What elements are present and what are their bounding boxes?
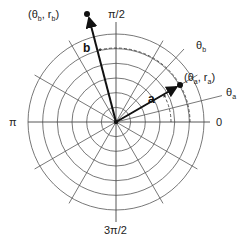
label-theta-b: θb [196,39,206,53]
label-three-half-pi: 3π/2 [104,224,127,236]
angle-b-arc [98,48,190,122]
label-point-b: (θb, rb) [28,8,59,22]
theta-a-line [116,96,222,122]
label-vector-b: b [83,41,90,55]
label-theta-a: θa [226,86,236,100]
origin-point [114,120,118,124]
label-half-pi: π/2 [108,8,125,20]
polar-diagram: 0 π π/2 3π/2 θb θa a b (θa, ra) (θb, rb) [0,0,243,245]
vector-a [116,87,177,122]
label-vector-a: a [148,92,155,106]
point-a [177,82,183,88]
label-point-a: (θa, ra) [184,71,215,85]
label-pi: π [9,116,17,128]
vector-b [89,18,116,122]
point-b [84,11,90,17]
label-zero: 0 [216,116,222,128]
